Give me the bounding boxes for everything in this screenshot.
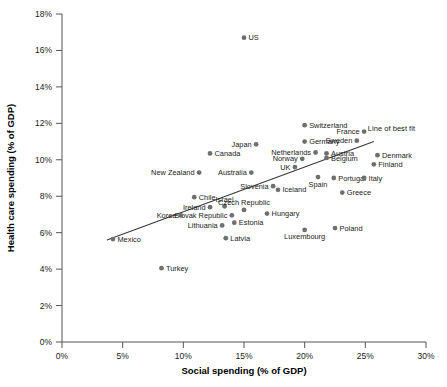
data-points: USSwitzerlandFranceGermanySwedenJapanNet… xyxy=(111,33,413,273)
point-label: Luxembourg xyxy=(284,232,325,241)
y-tick-label: 0% xyxy=(40,337,53,347)
y-tick-label: 14% xyxy=(35,82,52,92)
x-axis-title: Social spending (% of GDP) xyxy=(181,365,306,376)
y-tick-label: 10% xyxy=(35,155,52,165)
point-marker xyxy=(324,151,329,156)
y-axis-ticks: 0%2%4%6%8%10%12%14%16%18% xyxy=(35,9,62,347)
point-label: Sweden xyxy=(326,136,353,145)
point-marker xyxy=(220,223,225,228)
data-point: Sweden xyxy=(326,136,360,145)
point-label: UK xyxy=(280,163,290,172)
x-tick-label: 30% xyxy=(417,351,434,361)
data-point: Chile xyxy=(192,193,216,202)
data-point: France xyxy=(337,127,367,136)
point-marker xyxy=(208,151,213,156)
data-point: Estonia xyxy=(232,218,264,227)
x-axis-ticks: 0%5%10%15%20%25%30% xyxy=(56,342,435,361)
x-tick-label: 20% xyxy=(296,351,313,361)
point-marker xyxy=(249,170,254,175)
data-point: Slovak Republic xyxy=(174,211,234,220)
data-point: New Zealand xyxy=(151,168,201,177)
data-point: Turkey xyxy=(159,264,189,273)
data-point: Luxembourg xyxy=(284,228,325,242)
data-point: Denmark xyxy=(375,151,412,160)
point-marker xyxy=(197,170,202,175)
point-marker xyxy=(313,150,318,155)
point-marker xyxy=(375,153,380,158)
point-marker xyxy=(159,266,164,271)
x-tick-label: 10% xyxy=(175,351,192,361)
data-point: Greece xyxy=(340,188,371,197)
point-marker xyxy=(340,190,345,195)
point-marker xyxy=(300,156,305,161)
point-marker xyxy=(242,35,247,40)
point-marker xyxy=(371,162,376,167)
point-label: Slovenia xyxy=(240,182,269,191)
point-marker xyxy=(242,207,247,212)
point-label: Estonia xyxy=(239,218,265,227)
data-point: Canada xyxy=(208,149,242,158)
y-tick-label: 8% xyxy=(40,191,53,201)
point-marker xyxy=(354,138,359,143)
y-axis-title: Health care spending (% of GDP) xyxy=(5,104,16,252)
point-label: France xyxy=(337,127,360,136)
point-label: Australia xyxy=(218,168,248,177)
point-marker xyxy=(331,176,336,181)
data-point: US xyxy=(242,33,259,42)
x-tick-label: 25% xyxy=(357,351,374,361)
data-point: Poland xyxy=(333,224,363,233)
data-point: Australia xyxy=(218,168,254,177)
point-label: Iceland xyxy=(282,185,306,194)
point-label: Turkey xyxy=(166,264,189,273)
point-label: Chile xyxy=(199,193,216,202)
point-label: Finland xyxy=(378,160,402,169)
point-label: Italy xyxy=(369,174,383,183)
point-marker xyxy=(208,205,213,210)
data-point: Spain xyxy=(309,175,328,189)
point-marker xyxy=(293,165,298,170)
point-marker xyxy=(265,211,270,216)
point-marker xyxy=(362,129,367,134)
point-label: Czech Republic xyxy=(218,198,270,207)
data-point: Iceland xyxy=(276,185,307,194)
point-label: Mexico xyxy=(117,235,140,244)
point-label: Denmark xyxy=(382,151,412,160)
point-marker xyxy=(271,184,276,189)
point-label: Japan xyxy=(231,140,251,149)
point-marker xyxy=(192,195,197,200)
x-tick-label: 0% xyxy=(56,351,69,361)
y-tick-label: 16% xyxy=(35,45,52,55)
y-tick-label: 4% xyxy=(40,264,53,274)
scatter-chart: 0%2%4%6%8%10%12%14%16%18% 0%5%10%15%20%2… xyxy=(0,0,447,387)
x-tick-label: 15% xyxy=(235,351,252,361)
point-marker xyxy=(276,187,281,192)
point-label: US xyxy=(249,33,259,42)
y-tick-label: 2% xyxy=(40,301,53,311)
data-point: Latvia xyxy=(223,234,251,243)
x-tick-label: 5% xyxy=(117,351,130,361)
point-label: Canada xyxy=(215,149,242,158)
point-marker xyxy=(223,236,228,241)
point-marker xyxy=(254,142,259,147)
point-marker xyxy=(179,213,184,218)
data-point: Portugal xyxy=(331,174,366,183)
y-tick-label: 12% xyxy=(35,118,52,128)
point-label: Lithuania xyxy=(188,221,219,230)
point-marker xyxy=(333,226,338,231)
data-point: Lithuania xyxy=(188,221,225,230)
data-point: Mexico xyxy=(111,235,141,244)
point-label: Hungary xyxy=(272,209,300,218)
point-marker xyxy=(302,139,307,144)
point-marker xyxy=(232,220,237,225)
point-marker xyxy=(362,176,367,181)
point-marker xyxy=(324,156,329,161)
chart-canvas: 0%2%4%6%8%10%12%14%16%18% 0%5%10%15%20%2… xyxy=(0,0,447,387)
y-tick-label: 18% xyxy=(35,9,52,19)
data-point: Japan xyxy=(231,140,258,149)
point-label: Poland xyxy=(340,224,363,233)
data-point: Hungary xyxy=(265,209,300,218)
data-point: Slovenia xyxy=(240,182,275,191)
y-tick-label: 6% xyxy=(40,228,53,238)
point-marker xyxy=(302,123,307,128)
point-label: Belgium xyxy=(331,154,358,163)
